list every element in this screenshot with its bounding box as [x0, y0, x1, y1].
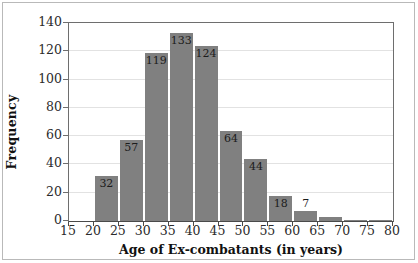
x-axis-tick-mark	[68, 222, 69, 226]
bar-value-label: 133	[170, 35, 193, 46]
x-axis-tick-mark	[93, 222, 94, 226]
bar-value-label: 119	[145, 55, 168, 66]
y-axis-tick-label: 0	[8, 214, 62, 227]
bar-value-label: 18	[269, 198, 292, 209]
histogram-bar: 32	[95, 176, 118, 221]
y-axis-tick-mark	[63, 79, 68, 80]
x-axis-tick-label: 45	[210, 225, 226, 238]
x-axis-tick-label: 80	[384, 225, 400, 238]
x-axis-tick-label: 15	[60, 225, 76, 238]
bar-value-label: 7	[294, 198, 317, 209]
y-axis-tick-mark	[63, 220, 68, 221]
histogram-bar	[369, 220, 392, 221]
x-axis-tick-label: 50	[235, 225, 251, 238]
x-axis-tick-mark	[342, 222, 343, 226]
x-axis-tick-mark	[168, 222, 169, 226]
y-axis-tick-mark	[63, 22, 68, 23]
histogram-bar: 64	[220, 131, 243, 222]
y-axis-tick-label: 60	[8, 129, 62, 142]
x-axis-tick-label: 55	[259, 225, 275, 238]
x-axis-tick-mark	[292, 222, 293, 226]
x-axis-tick-label: 40	[185, 225, 201, 238]
x-axis-tick-label: 75	[359, 225, 375, 238]
histogram-bar: 44	[244, 159, 267, 221]
bar-value-label: 64	[220, 133, 243, 144]
x-axis-tick-mark	[267, 222, 268, 226]
x-axis-tick-label: 60	[284, 225, 300, 238]
histogram-bar: 7	[294, 211, 317, 221]
y-axis-tick-mark	[63, 50, 68, 51]
histogram-figure: Frequency 020406080100120140 32571191331…	[0, 0, 418, 263]
x-axis-tick-label: 70	[334, 225, 350, 238]
x-axis-tick-mark	[367, 222, 368, 226]
histogram-bar	[319, 217, 342, 221]
x-axis-tick-mark	[317, 222, 318, 226]
x-axis-tick-mark	[118, 222, 119, 226]
x-axis-tick-labels: 1520253035404550556065707580	[68, 225, 394, 241]
x-axis-tick-mark	[218, 222, 219, 226]
y-axis-tick-mark	[63, 163, 68, 164]
y-axis-tick-label: 100	[8, 72, 62, 85]
gridline	[69, 79, 393, 80]
y-axis-tick-label: 120	[8, 44, 62, 57]
x-axis-tick-mark	[242, 222, 243, 226]
x-axis-tick-mark	[193, 222, 194, 226]
x-axis-title: Age of Ex-combatants (in years)	[68, 242, 394, 257]
y-axis-tick-label: 80	[8, 101, 62, 114]
y-axis-tick-label: 140	[8, 16, 62, 29]
x-axis-tick-label: 35	[160, 225, 176, 238]
x-axis-tick-label: 20	[85, 225, 101, 238]
histogram-bar: 57	[120, 140, 143, 221]
y-axis-tick-label: 20	[8, 185, 62, 198]
histogram-bar: 18	[269, 196, 292, 221]
y-axis-tick-label: 40	[8, 157, 62, 170]
y-axis-tick-mark	[63, 192, 68, 193]
x-axis-tick-mark	[392, 222, 393, 226]
x-axis-tick-mark	[143, 222, 144, 226]
gridline	[69, 107, 393, 108]
x-axis-tick-label: 30	[135, 225, 151, 238]
x-axis-tick-label: 65	[309, 225, 325, 238]
bar-value-label: 32	[95, 178, 118, 189]
bar-value-label: 124	[195, 48, 218, 59]
y-axis-tick-mark	[63, 135, 68, 136]
x-axis-tick-label: 25	[110, 225, 126, 238]
bar-value-label: 44	[244, 161, 267, 172]
plot-area: 32571191331246444187	[68, 22, 394, 222]
histogram-bar	[344, 220, 367, 221]
gridline	[69, 50, 393, 51]
histogram-bar: 119	[145, 53, 168, 221]
histogram-bar: 124	[195, 46, 218, 221]
bar-value-label: 57	[120, 142, 143, 153]
histogram-bar: 133	[170, 33, 193, 221]
y-axis-tick-mark	[63, 107, 68, 108]
